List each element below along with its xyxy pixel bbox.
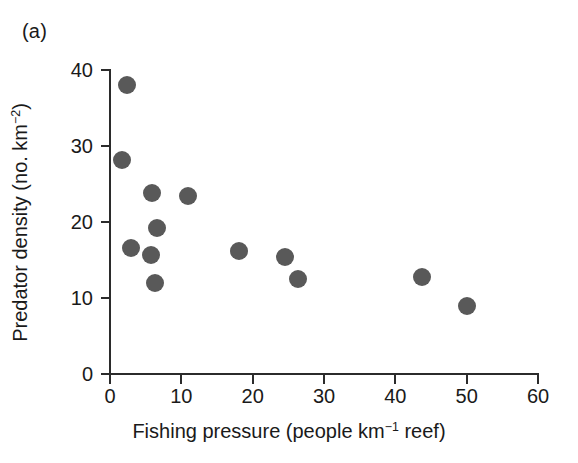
x-tick-0 [109, 375, 111, 384]
data-point [142, 246, 160, 264]
data-point [276, 248, 294, 266]
data-point [289, 270, 307, 288]
plot-area [110, 70, 538, 374]
data-point [146, 274, 164, 292]
data-point [113, 151, 131, 169]
x-tick-20 [252, 375, 254, 384]
y-tick-label-30: 30 [47, 136, 93, 156]
x-tick-label-40: 40 [365, 385, 425, 407]
x-tick-label-20: 20 [223, 385, 283, 407]
data-point [413, 268, 431, 286]
y-tick-40 [101, 69, 110, 71]
x-tick-30 [323, 375, 325, 384]
data-point [118, 76, 136, 94]
data-point [230, 242, 248, 260]
x-tick-label-60: 60 [508, 385, 568, 407]
x-tick-label-50: 50 [437, 385, 497, 407]
x-tick-label-0: 0 [80, 385, 140, 407]
y-axis-label: Predator density (no. km−2) [9, 103, 32, 342]
y-tick-label-20: 20 [47, 212, 93, 232]
x-tick-label-30: 30 [294, 385, 354, 407]
x-tick-60 [537, 375, 539, 384]
x-tick-50 [466, 375, 468, 384]
y-tick-20 [101, 221, 110, 223]
data-point [179, 187, 197, 205]
y-tick-30 [101, 145, 110, 147]
data-point [143, 184, 161, 202]
x-tick-10 [180, 375, 182, 384]
data-point [122, 239, 140, 257]
y-tick-10 [101, 297, 110, 299]
x-tick-40 [394, 375, 396, 384]
y-axis-label-container: Predator density (no. km−2) [0, 0, 40, 463]
y-tick-label-40: 40 [47, 60, 93, 80]
figure-panel: (a) Fishing pressure (people km−1 reef) … [0, 0, 578, 463]
y-tick-label-10: 10 [47, 288, 93, 308]
y-tick-label-0: 0 [47, 364, 93, 384]
x-tick-label-10: 10 [151, 385, 211, 407]
data-point [458, 297, 476, 315]
x-axis-label: Fishing pressure (people km−1 reef) [0, 420, 578, 443]
data-point [148, 219, 166, 237]
